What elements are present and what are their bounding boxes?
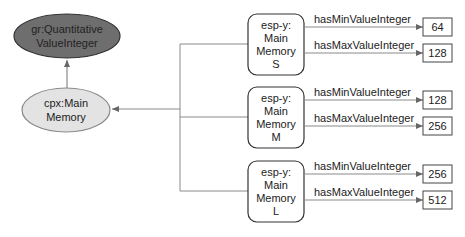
value-box-s-min[interactable]: 64 [423, 18, 452, 36]
edge-label: hasMaxValueInteger [314, 39, 414, 51]
value-box-l-min[interactable]: 256 [423, 165, 452, 183]
instance-label: Memory [256, 192, 296, 204]
edge-max-l: hasMaxValueInteger [304, 186, 423, 200]
instance-main-memory-m[interactable]: esp-y: Main Memory M [248, 87, 304, 148]
edge-label: hasMaxValueInteger [314, 112, 414, 124]
instance-label: Main [264, 105, 288, 117]
node-label: gr:Quantitative [31, 23, 103, 35]
node-main-memory[interactable]: cpx:Main Memory [22, 88, 110, 132]
node-label: ValueInteger [36, 37, 98, 49]
value-box-l-max[interactable]: 512 [423, 191, 452, 209]
instance-label: Main [264, 32, 288, 44]
node-label: cpx:Main [44, 97, 88, 109]
instance-label: esp-y: [261, 166, 291, 178]
value-box-m-min[interactable]: 128 [423, 91, 452, 109]
value-box-m-max[interactable]: 256 [423, 117, 452, 135]
value-label: 256 [428, 168, 446, 180]
value-box-s-max[interactable]: 128 [423, 44, 452, 62]
edge-label: hasMaxValueInteger [314, 186, 414, 198]
instance-label: S [272, 58, 279, 70]
node-label: Memory [46, 111, 86, 123]
value-label: 128 [428, 47, 446, 59]
instance-label: Memory [256, 45, 296, 57]
edge-label: hasMinValueInteger [314, 13, 411, 25]
instance-label: L [273, 205, 279, 217]
edge-max-s: hasMaxValueInteger [304, 39, 423, 53]
instance-of-connectors [112, 44, 248, 191]
node-quantitative-value-integer[interactable]: gr:Quantitative ValueInteger [14, 14, 120, 58]
value-label: 64 [431, 21, 443, 33]
value-label: 128 [428, 94, 446, 106]
instance-label: Memory [256, 118, 296, 130]
edge-max-m: hasMaxValueInteger [304, 112, 423, 126]
value-label: 256 [428, 120, 446, 132]
instance-label: esp-y: [261, 92, 291, 104]
edge-label: hasMinValueInteger [314, 160, 411, 172]
edge-min-s: hasMinValueInteger [304, 13, 423, 27]
instance-label: esp-y: [261, 19, 291, 31]
instance-main-memory-l[interactable]: esp-y: Main Memory L [248, 161, 304, 222]
value-label: 512 [428, 194, 446, 206]
ontology-diagram: gr:Quantitative ValueInteger cpx:Main Me… [0, 0, 465, 237]
edge-min-l: hasMinValueInteger [304, 160, 423, 174]
instance-label: Main [264, 179, 288, 191]
edge-min-m: hasMinValueInteger [304, 86, 423, 100]
instance-main-memory-s[interactable]: esp-y: Main Memory S [248, 14, 304, 75]
instance-label: M [271, 131, 280, 143]
edge-label: hasMinValueInteger [314, 86, 411, 98]
